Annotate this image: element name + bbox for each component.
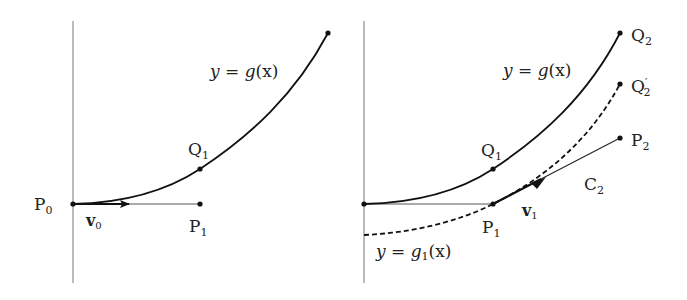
label-p1: P1	[189, 216, 207, 239]
start-point-dot	[361, 201, 366, 206]
label-p2: P2	[631, 130, 649, 153]
point-p1-dot-right	[490, 201, 495, 206]
vector-v1-arrow	[493, 179, 541, 204]
dashed-curve-label: y = g1(x)	[375, 241, 451, 263]
label-v1: v1	[521, 201, 538, 221]
right-panel: y = g(x) y = g1(x) Q2 Q′2 P2 C2 Q1 P1 v1	[361, 21, 652, 283]
label-q1-right: Q1	[481, 140, 502, 163]
point-q1-dot	[197, 166, 202, 171]
label-q1: Q1	[188, 139, 209, 162]
point-p1-dot	[197, 201, 202, 206]
point-q2-dot	[617, 30, 622, 35]
left-curve-g	[73, 33, 328, 204]
label-c2: C2	[584, 174, 604, 197]
diagram-canvas: y = g(x) P0 P1 Q1 v0 y = g(x) y = g1(x) …	[0, 0, 687, 300]
label-q2-prime: Q′2	[631, 76, 650, 99]
label-p0: P0	[34, 194, 52, 217]
point-p0-dot	[70, 201, 75, 206]
right-curve-g	[364, 33, 620, 204]
label-q2: Q2	[631, 25, 652, 48]
left-panel: y = g(x) P0 P1 Q1 v0	[34, 21, 331, 283]
label-p1-right: P1	[482, 217, 500, 240]
curve-end-dot	[325, 30, 330, 35]
point-q1-dot-right	[490, 166, 495, 171]
left-curve-label: y = g(x)	[209, 61, 278, 81]
right-curve-label: y = g(x)	[502, 60, 571, 80]
point-q2-prime-dot	[617, 81, 622, 86]
point-p2-dot	[617, 135, 622, 140]
vector-v1-arrowhead	[532, 177, 546, 189]
label-v0: v0	[85, 211, 102, 231]
